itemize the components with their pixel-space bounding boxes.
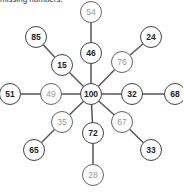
svg-text:65: 65 <box>29 145 39 155</box>
svg-text:32: 32 <box>127 89 137 99</box>
svg-text:54: 54 <box>86 7 96 17</box>
number-star-diagram: 10054468515247651493268356572286733 <box>0 0 183 195</box>
svg-text:51: 51 <box>5 89 15 99</box>
number-node: 85 <box>26 27 47 48</box>
svg-text:68: 68 <box>170 89 180 99</box>
svg-text:100: 100 <box>84 89 98 99</box>
svg-text:49: 49 <box>46 89 56 99</box>
number-node: 76 <box>112 52 133 73</box>
number-node: 54 <box>81 2 102 23</box>
number-node: 65 <box>24 140 45 161</box>
number-node: 15 <box>52 55 73 76</box>
svg-text:67: 67 <box>117 117 127 127</box>
svg-text:46: 46 <box>86 48 96 58</box>
number-node: 35 <box>52 112 73 133</box>
number-node: 46 <box>81 43 102 64</box>
number-node: 49 <box>41 84 62 105</box>
center-node: 100 <box>81 84 102 105</box>
number-node: 68 <box>165 84 184 105</box>
svg-text:15: 15 <box>57 60 67 70</box>
number-node: 28 <box>83 165 104 186</box>
number-node: 51 <box>0 84 21 105</box>
number-node: 72 <box>83 123 104 144</box>
svg-text:72: 72 <box>88 128 98 138</box>
svg-text:35: 35 <box>57 117 67 127</box>
svg-text:28: 28 <box>88 170 98 180</box>
svg-text:76: 76 <box>117 57 127 67</box>
number-node: 33 <box>141 140 162 161</box>
svg-text:85: 85 <box>31 32 41 42</box>
number-node: 24 <box>141 27 162 48</box>
svg-text:33: 33 <box>146 145 156 155</box>
number-node: 32 <box>122 84 143 105</box>
number-node: 67 <box>112 112 133 133</box>
svg-text:24: 24 <box>146 32 156 42</box>
